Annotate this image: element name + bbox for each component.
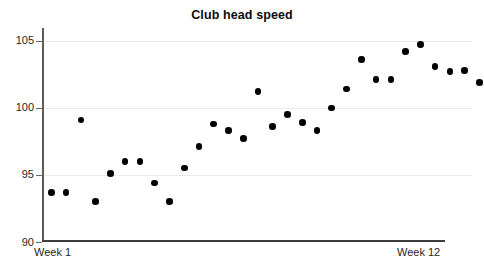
gridline [44,41,472,42]
data-point [225,127,232,134]
data-point [122,158,129,165]
chart-title: Club head speed [0,8,484,22]
data-point [151,180,158,187]
data-point [299,119,306,126]
data-point [432,63,439,70]
y-axis-tick-label: 105 [2,35,34,46]
y-axis-tick-mark [36,242,42,243]
y-axis-tick: 90 [0,237,34,248]
data-point [240,135,247,142]
data-point [181,165,188,172]
data-point [107,170,114,177]
data-point [461,67,468,74]
x-axis-label-end: Week 12 [397,246,440,258]
data-point [196,143,203,150]
data-point [63,189,70,196]
data-point [373,76,380,83]
data-point [328,105,335,112]
x-axis-label-start: Week 1 [34,246,71,258]
y-axis-tick-label: 95 [2,169,34,180]
data-point [314,127,321,134]
data-point [48,189,55,196]
y-axis-tick-label: 90 [2,237,34,248]
gridline [44,108,472,109]
y-axis-tick-label: 100 [2,102,34,113]
plot-area [44,30,472,242]
y-axis-tick: 100 [0,102,34,113]
data-point [343,86,350,93]
data-point [447,68,454,75]
data-point [255,88,262,95]
data-point [284,111,291,118]
y-axis-tick: 105 [0,35,34,46]
data-point [210,121,217,128]
y-axis-tick: 95 [0,169,34,180]
data-point [417,41,424,48]
data-point [92,198,99,205]
data-point [78,117,85,124]
data-point [388,76,395,83]
data-point [269,123,276,130]
y-axis-tick-mark [36,108,42,109]
data-point [137,158,144,165]
data-point [358,56,365,63]
data-point [402,48,409,55]
data-point [166,198,173,205]
data-point [476,79,483,86]
y-axis-tick-mark [36,41,42,42]
y-axis-tick-mark [36,175,42,176]
scatter-chart: Club head speed 9095100105 Week 1 Week 1… [0,0,484,271]
